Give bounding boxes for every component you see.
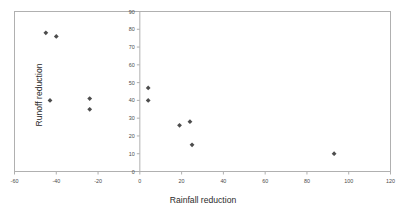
x-tick-label: 40 (220, 178, 226, 184)
data-points (43, 30, 336, 156)
y-tick-label: 70 (129, 44, 135, 50)
data-point-marker (188, 119, 193, 124)
y-tick-label: 40 (129, 97, 135, 103)
x-tick-label: 60 (262, 178, 268, 184)
x-tick-label: 20 (179, 178, 185, 184)
plot-frame (15, 12, 391, 172)
data-point-marker (48, 98, 53, 103)
x-tick-label: -40 (52, 178, 60, 184)
x-tick-label: 100 (344, 178, 353, 184)
data-point-marker (332, 151, 337, 156)
data-point-marker (177, 123, 182, 128)
x-axis-title: Rainfall reduction (170, 195, 237, 205)
x-tick-label: 120 (386, 178, 395, 184)
data-point-marker (43, 30, 48, 35)
y-axis-ticks: 0102030405060708090 (129, 9, 140, 175)
data-point-marker (146, 86, 151, 91)
y-tick-label: 10 (129, 151, 135, 157)
data-point-marker (54, 34, 59, 39)
data-point-marker (190, 142, 195, 147)
y-tick-label: 60 (129, 62, 135, 68)
x-tick-label: -20 (94, 178, 102, 184)
y-tick-label: 50 (129, 80, 135, 86)
x-tick-label: 80 (304, 178, 310, 184)
y-tick-label: 20 (129, 133, 135, 139)
y-tick-label: 90 (129, 9, 135, 15)
y-axis-title: Runoff reduction (34, 63, 44, 126)
chart-svg: -60-40-20020406080100120 010203040506070… (0, 0, 405, 210)
y-tick-label: 0 (132, 169, 135, 175)
x-axis-ticks: -60-40-20020406080100120 (11, 172, 395, 184)
y-tick-label: 80 (129, 26, 135, 32)
data-point-marker (87, 96, 92, 101)
data-point-marker (146, 98, 151, 103)
data-point-marker (87, 107, 92, 112)
y-tick-label: 30 (129, 115, 135, 121)
x-tick-label: -60 (11, 178, 19, 184)
scatter-chart: -60-40-20020406080100120 010203040506070… (0, 0, 405, 210)
x-tick-label: 0 (138, 178, 141, 184)
